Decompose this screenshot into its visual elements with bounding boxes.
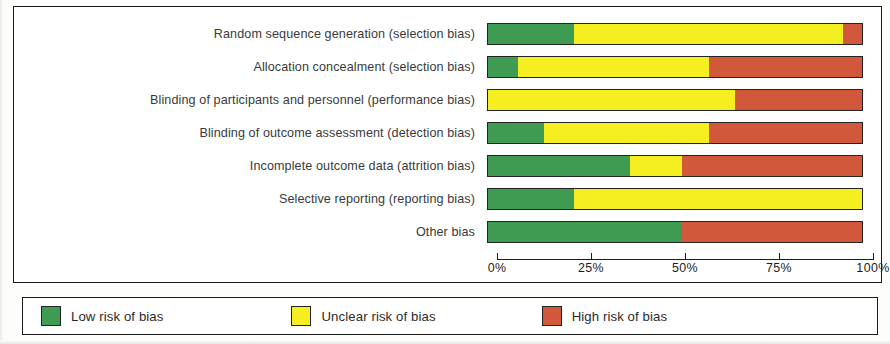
bar-segment-high	[682, 156, 862, 176]
bar-segment-high	[735, 90, 862, 110]
legend-item: Unclear risk of bias	[291, 306, 435, 326]
axis-tick	[497, 253, 498, 260]
chart-panel: Random sequence generation (selection bi…	[13, 6, 882, 283]
legend-swatch-icon	[291, 306, 311, 326]
axis-tick	[779, 253, 780, 260]
bar-row-label: Other bias	[14, 225, 487, 239]
bar-segment-high	[682, 222, 862, 242]
bar-segment-low	[488, 123, 544, 143]
axis-tick-label: 75%	[766, 261, 792, 275]
axis-tick-label: 50%	[672, 261, 698, 275]
page-edge-bottom	[0, 340, 890, 344]
stacked-bar	[487, 23, 863, 45]
bar-segment-high	[843, 24, 862, 44]
bar-segment-unclear	[488, 90, 735, 110]
stacked-bar	[487, 188, 863, 210]
legend-item: High risk of bias	[542, 306, 668, 326]
page-edge-left	[0, 0, 4, 344]
legend-label: Unclear risk of bias	[321, 309, 435, 324]
bar-segment-unclear	[544, 123, 709, 143]
bar-segment-unclear	[630, 156, 682, 176]
legend-item: Low risk of bias	[41, 306, 163, 326]
bar-row-label: Blinding of outcome assessment (detectio…	[14, 126, 487, 140]
legend-label: High risk of bias	[572, 309, 668, 324]
bar-row: Selective reporting (reporting bias)	[14, 182, 883, 215]
stacked-bar	[487, 89, 863, 111]
axis-tick-label: 0%	[488, 261, 507, 275]
bar-row: Allocation concealment (selection bias)	[14, 50, 883, 83]
stacked-bar	[487, 155, 863, 177]
axis-tick-label: 100%	[856, 261, 889, 275]
x-axis: 0%25%50%75%100%	[484, 253, 862, 279]
risk-of-bias-graph: Random sequence generation (selection bi…	[0, 0, 890, 344]
bar-row-label: Selective reporting (reporting bias)	[14, 192, 487, 206]
bar-segment-unclear	[518, 57, 709, 77]
bar-row-label: Random sequence generation (selection bi…	[14, 27, 487, 41]
bar-segment-low	[488, 222, 682, 242]
bar-rows: Random sequence generation (selection bi…	[14, 17, 883, 248]
bar-row: Other bias	[14, 215, 883, 248]
stacked-bar	[487, 221, 863, 243]
axis-tick	[591, 253, 592, 260]
bar-segment-high	[709, 123, 862, 143]
axis-tick	[873, 253, 874, 260]
chart-legend: Low risk of biasUnclear risk of biasHigh…	[22, 297, 878, 335]
bar-segment-low	[488, 156, 630, 176]
bar-segment-low	[488, 189, 574, 209]
bar-row-label: Allocation concealment (selection bias)	[14, 60, 487, 74]
axis-tick	[685, 253, 686, 260]
bar-row-label: Incomplete outcome data (attrition bias)	[14, 159, 487, 173]
bar-segment-low	[488, 24, 574, 44]
bar-row: Blinding of participants and personnel (…	[14, 83, 883, 116]
legend-swatch-icon	[41, 306, 61, 326]
bar-row: Random sequence generation (selection bi…	[14, 17, 883, 50]
bar-segment-unclear	[574, 189, 862, 209]
bar-segment-high	[709, 57, 862, 77]
bar-segment-low	[488, 57, 518, 77]
stacked-bar	[487, 122, 863, 144]
legend-swatch-icon	[542, 306, 562, 326]
bar-segment-unclear	[574, 24, 843, 44]
bar-row-label: Blinding of participants and personnel (…	[14, 93, 487, 107]
legend-label: Low risk of bias	[71, 309, 163, 324]
bar-row: Incomplete outcome data (attrition bias)	[14, 149, 883, 182]
bar-row: Blinding of outcome assessment (detectio…	[14, 116, 883, 149]
stacked-bar	[487, 56, 863, 78]
axis-tick-label: 25%	[578, 261, 604, 275]
